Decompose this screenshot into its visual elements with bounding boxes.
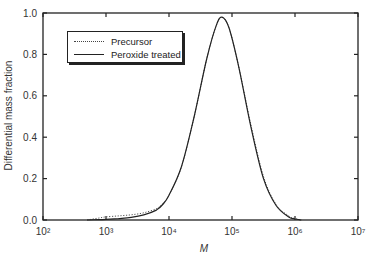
legend: Precursor Peroxide treated (67, 31, 183, 63)
chart-canvas: 10²10³10⁴10⁵10⁶10⁷ 0.00.20.40.60.81.0 M (0, 0, 376, 260)
x-axis-label: M (200, 243, 209, 254)
y-tick-label: 0.4 (23, 132, 37, 143)
x-tick-label: 10⁴ (161, 226, 176, 237)
y-tick-label: 0.0 (23, 215, 37, 226)
x-tick-label: 10⁶ (287, 226, 302, 237)
y-tick-label: 0.2 (23, 173, 37, 184)
solid-line-swatch-icon (74, 54, 104, 55)
legend-item-peroxide-treated: Peroxide treated (74, 48, 181, 60)
y-tick-label: 1.0 (23, 8, 37, 19)
x-tick-label: 10⁷ (351, 226, 366, 237)
y-axis-label: Differential mass fraction (3, 56, 14, 176)
x-tick-label: 10² (36, 226, 51, 237)
y-tick-label: 0.8 (23, 49, 37, 60)
legend-item-precursor: Precursor (74, 35, 152, 47)
legend-label: Precursor (111, 36, 152, 47)
dotted-line-swatch-icon (74, 41, 104, 42)
x-tick-label: 10⁵ (224, 226, 239, 237)
legend-label: Peroxide treated (111, 49, 181, 60)
x-tick-label: 10³ (99, 226, 114, 237)
y-tick-label: 0.6 (23, 90, 37, 101)
